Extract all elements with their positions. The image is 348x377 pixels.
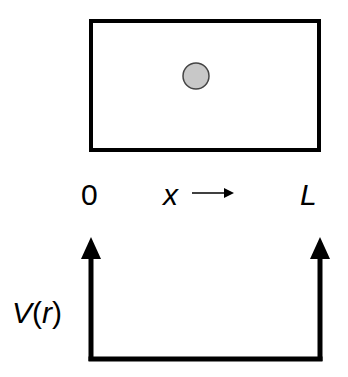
origin-label: 0 bbox=[81, 178, 98, 211]
particle-icon bbox=[183, 63, 209, 89]
left-wall-arrow-icon bbox=[81, 237, 101, 259]
potential-label: V(r) bbox=[12, 296, 62, 329]
end-label: L bbox=[300, 178, 317, 211]
x-variable-label: x bbox=[161, 178, 179, 211]
potential-well bbox=[81, 237, 330, 361]
right-wall-arrow-icon bbox=[310, 237, 330, 259]
diagram-canvas: 0 x L V(r) bbox=[0, 0, 348, 377]
x-direction-arrow-icon bbox=[192, 188, 234, 198]
